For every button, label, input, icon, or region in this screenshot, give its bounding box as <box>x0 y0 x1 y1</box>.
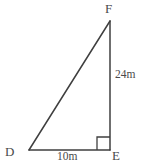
vertex-label-f: F <box>105 2 112 15</box>
vertex-label-e: E <box>112 149 120 162</box>
hypotenuse-df <box>29 21 110 150</box>
vertex-label-d: D <box>5 145 14 158</box>
triangle-drawing <box>0 0 146 166</box>
geometry-figure: F D E 24m 10m <box>0 0 146 166</box>
side-length-label-ef: 24m <box>115 69 135 81</box>
right-angle-marker-icon <box>97 137 110 150</box>
side-length-label-de: 10m <box>57 151 77 163</box>
